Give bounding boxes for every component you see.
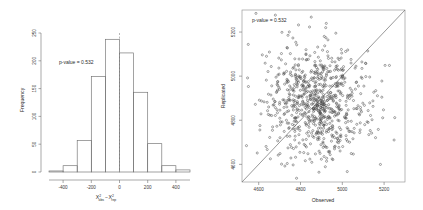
scatter-point	[314, 51, 316, 53]
scatter-point	[279, 137, 281, 139]
histogram-x-axis-title: X2obs−X2rep	[96, 194, 116, 202]
scatter-point	[323, 35, 325, 37]
scatter-point	[319, 60, 321, 62]
scatter-point	[272, 126, 274, 128]
scatter-point	[279, 124, 281, 126]
scatter-point	[308, 26, 310, 28]
scatter-ytick-label: 4600	[231, 159, 236, 170]
scatter-point	[324, 121, 326, 123]
scatter-point	[352, 138, 354, 140]
scatter-point	[306, 99, 308, 101]
scatter-point	[323, 138, 325, 140]
scatter-point	[299, 151, 301, 153]
histogram-ytick-0: 0	[32, 170, 37, 173]
scatter-point	[304, 160, 306, 162]
histogram-bar	[120, 53, 134, 172]
scatter-point	[300, 103, 302, 105]
scatter-point	[260, 113, 262, 115]
scatter-point	[351, 92, 353, 94]
scatter-point	[322, 130, 324, 132]
scatter-point	[298, 69, 300, 71]
histogram-bar	[105, 39, 119, 172]
scatter-point	[325, 22, 327, 24]
histogram-bar	[49, 171, 63, 172]
scatter-point	[287, 34, 289, 36]
scatter-x-axis-title: Observed	[312, 197, 335, 203]
scatter-xtick-label: 5000	[337, 187, 348, 192]
scatter-point	[365, 76, 367, 78]
scatter-point	[310, 16, 312, 18]
scatter-point	[261, 54, 263, 56]
scatter-point	[307, 81, 309, 83]
scatter-point	[351, 90, 353, 92]
scatter-panel: 4600480050005200 4600480050005200 Observ…	[212, 0, 423, 210]
scatter-point	[312, 130, 314, 132]
scatter-point	[309, 158, 311, 160]
scatter-point	[350, 58, 352, 60]
scatter-point	[267, 110, 269, 112]
scatter-point	[364, 124, 366, 126]
scatter-point	[339, 99, 341, 101]
scatter-point	[372, 105, 374, 107]
scatter-point	[294, 135, 296, 137]
scatter-point	[341, 52, 343, 54]
scatter-point	[363, 85, 365, 87]
scatter-point	[247, 77, 249, 79]
scatter-point	[362, 102, 364, 104]
scatter-point	[299, 113, 301, 115]
scatter-point	[342, 95, 344, 97]
scatter-point	[340, 57, 342, 59]
scatter-point	[350, 152, 352, 154]
scatter-point	[345, 100, 347, 102]
scatter-point	[293, 87, 295, 89]
scatter-point	[317, 46, 319, 48]
scatter-point	[258, 99, 260, 101]
scatter-point	[346, 140, 348, 142]
scatter-point	[326, 160, 328, 162]
scatter-point	[296, 112, 298, 114]
scatter-point	[322, 146, 324, 148]
scatter-point	[331, 120, 333, 122]
scatter-point	[359, 106, 361, 108]
scatter-point	[259, 129, 261, 131]
scatter-point	[363, 104, 365, 106]
scatter-ytick-label: 4800	[231, 115, 236, 126]
scatter-point	[276, 109, 278, 111]
scatter-point	[278, 57, 280, 59]
scatter-point	[326, 157, 328, 159]
scatter-point	[307, 101, 309, 103]
scatter-point	[377, 128, 379, 130]
scatter-point	[314, 124, 316, 126]
scatter-point	[298, 109, 300, 111]
scatter-point	[342, 84, 344, 86]
scatter-point	[338, 126, 340, 128]
histogram-bar	[134, 92, 148, 172]
scatter-point	[332, 76, 334, 78]
scatter-point	[255, 12, 257, 14]
scatter-point	[307, 153, 309, 155]
scatter-point	[368, 134, 370, 136]
scatter-point	[293, 148, 295, 150]
histogram-x-ticks	[63, 180, 176, 183]
scatter-point	[349, 98, 351, 100]
histogram-bar	[91, 77, 105, 172]
scatter-x-ticklabels: 4600480050005200	[254, 187, 390, 192]
scatter-point	[347, 49, 349, 51]
scatter-point	[382, 109, 384, 111]
histogram-xtick-label: -400	[58, 185, 68, 190]
scatter-point	[355, 65, 357, 67]
svg-text:X2obs−X2rep: X2obs−X2rep	[96, 194, 116, 202]
histogram-ytick-4: 200	[32, 57, 37, 65]
scatter-point	[318, 171, 320, 173]
scatter-point	[292, 164, 294, 166]
scatter-point	[317, 92, 319, 94]
scatter-point	[326, 51, 328, 53]
scatter-point	[308, 131, 310, 133]
scatter-point	[334, 137, 336, 139]
scatter-point	[322, 114, 324, 116]
scatter-point	[327, 131, 329, 133]
scatter-point	[295, 41, 297, 43]
histogram-panel: 0 50 100 150 200 250 Frequency -400-2000…	[0, 0, 212, 210]
scatter-point	[329, 111, 331, 113]
scatter-point	[290, 146, 292, 148]
